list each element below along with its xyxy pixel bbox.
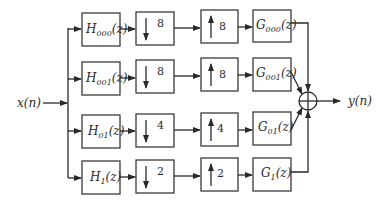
analysis-filter-label: H1(z) — [89, 170, 122, 186]
down-factor: 8 — [157, 17, 164, 30]
up-factor: 8 — [219, 20, 226, 33]
downsampler-8 — [136, 60, 174, 93]
input-label: x(n) — [17, 96, 41, 110]
up-factor: 4 — [217, 122, 224, 135]
sum-input-3 — [291, 111, 308, 172]
output-label: y(n) — [347, 94, 372, 108]
branch-0: H000(z) 8 8 G000(z) — [82, 10, 297, 46]
summing-junction-icon — [299, 92, 317, 110]
synthesis-filter-label: G1(z) — [261, 166, 292, 182]
filter-bank-diagram: x(n) H000(z) 8 8 G000(z) H001(z) 8 8 G0 — [0, 0, 383, 204]
up-factor: 8 — [219, 68, 226, 81]
sum-input-2 — [291, 108, 302, 130]
down-factor: 4 — [157, 119, 164, 132]
down-factor: 2 — [157, 165, 164, 178]
sum-input-0 — [291, 23, 308, 91]
branch-3: H1(z) 2 2 G1(z) — [82, 158, 292, 194]
branch-1: H001(z) 8 8 G001(z) — [82, 58, 297, 95]
up-factor: 2 — [217, 167, 224, 180]
branch-2: H01(z) 4 4 G01(z) — [82, 112, 294, 148]
downsampler-4 — [136, 114, 174, 147]
down-factor: 8 — [157, 65, 164, 78]
downsampler-2 — [136, 160, 174, 193]
downsampler-8 — [136, 12, 174, 45]
